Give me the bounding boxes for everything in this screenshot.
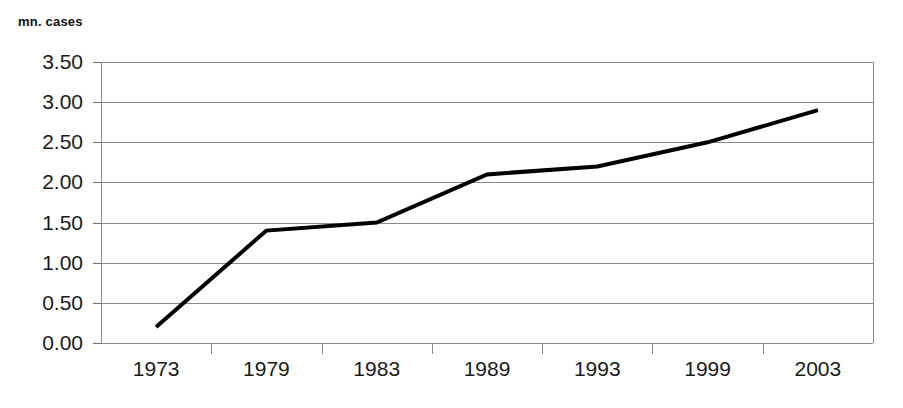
- x-axis-tick-label: 1983: [322, 357, 432, 381]
- x-axis-tick-mark: [211, 343, 212, 354]
- chart-canvas: mn. cases 0.000.501.001.502.002.503.003.…: [0, 0, 903, 408]
- x-axis-tick-mark: [432, 343, 433, 354]
- x-axis-tick-label: 1979: [211, 357, 321, 381]
- x-axis-tick-label: 1999: [652, 357, 762, 381]
- x-axis-tick-label: 1973: [101, 357, 211, 381]
- x-axis-tick-label: 1993: [542, 357, 652, 381]
- x-axis-tick-mark: [652, 343, 653, 354]
- x-axis-tick-mark: [763, 343, 764, 354]
- x-axis-tick-mark: [322, 343, 323, 354]
- x-axis-tick-label: 1989: [432, 357, 542, 381]
- x-axis: 1973197919831989199319992003: [0, 0, 903, 408]
- x-axis-tick-label: 2003: [763, 357, 873, 381]
- x-axis-tick-mark: [542, 343, 543, 354]
